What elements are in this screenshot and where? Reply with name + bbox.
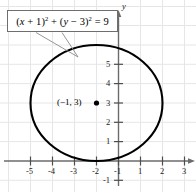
equation-plus-one: + 1) bbox=[25, 16, 45, 27]
equation-minus-three: − 3) bbox=[68, 16, 88, 27]
equation-label: (x + 1)2 + (y − 3)2 = 9 bbox=[16, 16, 109, 27]
equation-plus-middle: + ( bbox=[48, 16, 63, 27]
x-tick-label-3: 3 bbox=[182, 167, 186, 176]
y-tick-label-1: 1 bbox=[106, 137, 110, 146]
center-point-label: (−1, 3) bbox=[57, 98, 82, 107]
y-tick-label-5: 5 bbox=[106, 60, 110, 69]
x-tick-label--3: -3 bbox=[70, 167, 77, 176]
y-tick-label-4: 4 bbox=[106, 79, 110, 88]
x-tick-label--4: -4 bbox=[48, 167, 55, 176]
y-axis-label: y bbox=[122, 2, 126, 11]
equation-equals-nine: = 9 bbox=[92, 16, 109, 27]
y-tick-label-3: 3 bbox=[106, 99, 110, 108]
x-tick-label--5: -5 bbox=[26, 167, 33, 176]
y-tick-label--1: -1 bbox=[103, 176, 110, 185]
center-point-marker bbox=[94, 100, 99, 105]
x-tick-label-1: 1 bbox=[138, 167, 142, 176]
y-tick-label-2: 2 bbox=[106, 118, 110, 127]
x-tick-label--2: -2 bbox=[92, 167, 99, 176]
x-tick-label-2: 2 bbox=[160, 167, 164, 176]
circle-graph-figure: -5 -4 -3 -2 -1 1 2 3 5 4 3 2 1 -1 y (−1,… bbox=[0, 0, 196, 192]
equation-callout-box: (x + 1)2 + (y − 3)2 = 9 bbox=[7, 10, 118, 32]
x-tick-label--1: -1 bbox=[114, 167, 121, 176]
